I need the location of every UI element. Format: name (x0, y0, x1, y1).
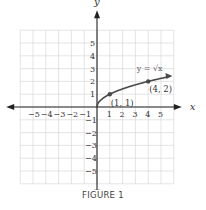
point-label: (4, 2) (149, 84, 172, 94)
x-tick-label: 3 (132, 110, 137, 119)
x-tick-label: 5 (158, 110, 163, 119)
data-point (146, 79, 150, 83)
annotations: y = √x (136, 64, 163, 73)
coordinate-plane: xy −5−4−3−2−112345−5−4−3−2−112345 (1, 1)… (0, 0, 206, 190)
x-tick-label: −2 (66, 110, 78, 119)
x-axis-arrow-left-icon (6, 104, 14, 110)
data-point (108, 92, 112, 96)
curve-arrow-icon (165, 73, 172, 79)
x-tick-label: 4 (145, 110, 150, 119)
point-label: (1, 1) (111, 98, 134, 108)
y-tick-label: −4 (85, 154, 97, 163)
x-axis-arrow-right-icon (174, 104, 182, 110)
y-tick-label: 4 (90, 52, 95, 61)
x-axis-label: x (190, 101, 196, 112)
x-tick-label: −5 (28, 110, 40, 119)
y-tick-label: 2 (90, 77, 95, 86)
x-tick-label: 1 (107, 110, 112, 119)
function-label: y = √x (136, 64, 163, 73)
axes: xy (6, 0, 196, 190)
y-tick-label: −1 (85, 116, 97, 125)
y-tick-label: −5 (85, 167, 97, 176)
y-tick-label: 5 (90, 39, 95, 48)
y-axis-arrow-up-icon (94, 10, 100, 18)
x-tick-label: 2 (120, 110, 125, 119)
x-tick-label: −3 (54, 110, 66, 119)
y-axis-label: y (93, 0, 100, 7)
x-tick-label: −4 (41, 110, 53, 119)
y-tick-label: −3 (85, 141, 97, 150)
y-tick-label: −2 (85, 129, 97, 138)
y-tick-label: 1 (90, 90, 95, 99)
figure-caption: FIGURE 1 (0, 190, 206, 200)
y-tick-label: 3 (90, 65, 95, 74)
